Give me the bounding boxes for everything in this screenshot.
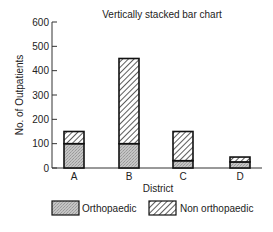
x-tick-label: C	[179, 171, 186, 182]
x-tick-label: D	[236, 171, 243, 182]
x-tick-label: A	[71, 171, 78, 182]
bar-segment-non-orthopaedic	[64, 132, 84, 144]
legend-swatch-orthopaedic	[52, 201, 79, 215]
legend-swatch-non-orthopaedic	[149, 201, 176, 215]
legend-label-orthopaedic: Orthopaedic	[82, 203, 136, 214]
bars-group	[64, 59, 250, 169]
legend: Orthopaedic Non orthopaedic	[52, 201, 253, 215]
y-axis-ticks: 0100200300400500600	[32, 17, 57, 174]
bar-segment-orthopaedic	[173, 161, 193, 168]
bar-segment-orthopaedic	[64, 144, 84, 168]
bar-segment-orthopaedic	[230, 162, 250, 168]
bar-C	[173, 132, 193, 169]
bar-segment-non-orthopaedic	[230, 157, 250, 162]
bar-segment-orthopaedic	[119, 144, 139, 168]
y-tick-label: 500	[32, 41, 49, 52]
bar-segment-non-orthopaedic	[119, 59, 139, 144]
legend-label-non-orthopaedic: Non orthopaedic	[180, 203, 253, 214]
x-axis-label: District	[143, 183, 174, 194]
bar-A	[64, 132, 84, 169]
bar-B	[119, 59, 139, 169]
y-tick-label: 0	[43, 163, 49, 174]
x-axis-tick-labels: ABCD	[71, 171, 244, 182]
bar-segment-non-orthopaedic	[173, 132, 193, 161]
x-tick-label: B	[126, 171, 133, 182]
stacked-bar-chart: Vertically stacked bar chart No. of Outp…	[0, 0, 273, 232]
chart-title: Vertically stacked bar chart	[102, 9, 222, 20]
y-tick-label: 400	[32, 65, 49, 76]
y-tick-label: 300	[32, 90, 49, 101]
y-axis-label: No. of Outpatients	[14, 55, 25, 136]
bar-D	[230, 157, 250, 168]
y-tick-label: 600	[32, 17, 49, 28]
y-tick-label: 200	[32, 114, 49, 125]
y-tick-label: 100	[32, 138, 49, 149]
